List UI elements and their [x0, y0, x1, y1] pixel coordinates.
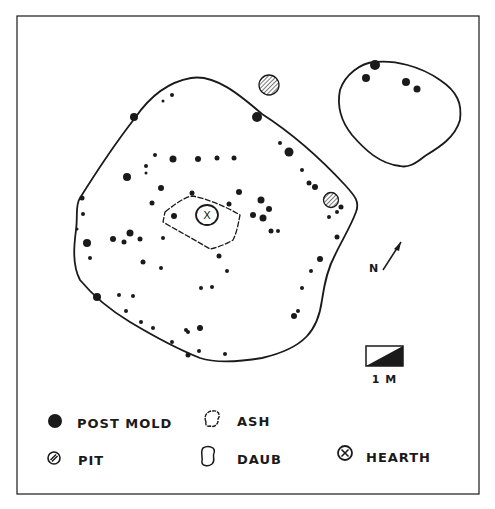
post-mold: [150, 201, 155, 206]
post-mold: [197, 349, 201, 353]
post-mold: [145, 172, 148, 175]
post-mold: [170, 340, 174, 344]
post-mold: [170, 93, 174, 97]
site-plan: X N 1 M POST MOLDASHPITDAUBHEARTH: [0, 0, 495, 509]
post-mold: [139, 320, 143, 324]
post-mold: [199, 286, 203, 290]
post-mold: [252, 112, 262, 122]
house-outline: [74, 78, 357, 362]
post-mold: [269, 229, 274, 234]
post-mold: [227, 202, 232, 207]
daub-icon: [202, 447, 215, 466]
post-mold: [225, 269, 229, 273]
post-mold: [184, 328, 188, 332]
post-mold: [170, 156, 177, 163]
post-mold: [300, 286, 304, 290]
post-mold: [151, 326, 155, 330]
post-mold: [144, 164, 148, 168]
ash-icon: [205, 411, 219, 427]
post-mold: [232, 156, 237, 161]
post-mold: [88, 256, 92, 260]
post-mold: [362, 74, 370, 82]
post-mold: [161, 236, 165, 240]
hearth-icon: X: [196, 205, 218, 225]
post-mold: [260, 215, 267, 222]
post-mold: [93, 293, 101, 301]
post-mold: [236, 189, 242, 195]
post-mold: [190, 191, 195, 196]
post-mold: [276, 229, 280, 233]
post-mold: [124, 309, 128, 313]
post-mold: [285, 148, 294, 157]
hearth-marker: X: [203, 209, 211, 222]
post-mold: [81, 212, 85, 216]
secondary-outline: [339, 62, 461, 167]
post-mold: [153, 153, 157, 157]
legend-item-ash: ASH: [205, 411, 270, 429]
post-mold: [327, 215, 331, 219]
post-mold: [223, 352, 227, 356]
main-house-structure: X: [74, 75, 357, 361]
post-mold: [309, 269, 313, 273]
post-mold: [130, 113, 138, 121]
post-mold: [335, 235, 340, 240]
post-mold: [278, 141, 282, 145]
post-mold: [300, 168, 304, 172]
post-mold: [141, 260, 146, 265]
post-mold: [266, 206, 272, 212]
post-mold-icon: [48, 414, 62, 428]
post-mold: [76, 228, 79, 231]
scale-label: 1 M: [372, 373, 397, 386]
post-mold: [307, 181, 312, 186]
post-mold: [210, 285, 214, 289]
post-mold: [250, 212, 256, 218]
legend-item-hearth: HEARTH: [338, 446, 431, 465]
post-mold: [258, 197, 265, 204]
post-mold: [339, 205, 344, 210]
pit-icon: [48, 452, 60, 464]
legend-label: POST MOLD: [77, 416, 172, 431]
post-mold: [171, 213, 177, 219]
legend-label: HEARTH: [366, 450, 431, 465]
north-label: N: [369, 262, 379, 275]
legend-label: ASH: [237, 414, 270, 429]
legend: POST MOLDASHPITDAUBHEARTH: [48, 411, 431, 468]
post-mold: [83, 239, 91, 247]
post-mold: [402, 78, 410, 86]
legend-item-post-mold: POST MOLD: [48, 414, 172, 431]
post-mold: [127, 230, 134, 237]
post-mold: [370, 60, 380, 70]
scale-bar: 1 M: [366, 346, 403, 386]
post-mold: [80, 196, 85, 201]
post-mold: [312, 184, 318, 190]
post-mold: [162, 100, 165, 103]
post-mold: [335, 210, 339, 214]
legend-item-daub: DAUB: [202, 447, 282, 467]
post-mold: [159, 266, 163, 270]
post-mold: [138, 237, 143, 242]
post-mold: [197, 325, 203, 331]
post-mold: [215, 156, 220, 161]
legend-label: DAUB: [237, 452, 282, 467]
pit: [259, 75, 279, 95]
post-mold: [186, 353, 191, 358]
post-molds: [362, 60, 421, 93]
post-mold: [291, 313, 297, 319]
post-mold: [217, 254, 222, 259]
post-mold: [110, 236, 116, 242]
post-mold: [117, 293, 121, 297]
secondary-structure: [339, 60, 461, 167]
post-mold: [414, 86, 421, 93]
pit: [324, 193, 339, 208]
north-arrow: N: [369, 242, 401, 275]
legend-item-pit: PIT: [48, 452, 104, 468]
post-mold: [296, 309, 300, 313]
post-mold: [317, 256, 323, 262]
post-mold: [123, 173, 131, 181]
post-mold: [131, 294, 135, 298]
arrowhead-icon: [394, 242, 401, 251]
legend-label: PIT: [78, 453, 104, 468]
post-mold: [122, 240, 127, 245]
post-mold: [195, 156, 201, 162]
post-mold: [158, 185, 164, 191]
